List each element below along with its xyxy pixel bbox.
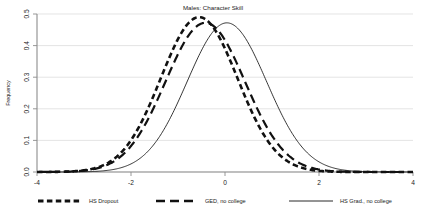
chart-background — [0, 0, 427, 212]
chart-title: Males: Character Skill — [183, 4, 243, 11]
x-tick-label: 2 — [317, 179, 321, 186]
legend-label-hs-grad-no-college: HS Grad., no college — [340, 198, 392, 204]
density-chart: Males: Character Skill 0.00.10.20.30.40.… — [0, 0, 427, 212]
y-tick-label: 0.1 — [23, 135, 30, 144]
y-tick-label: 0.5 — [23, 9, 30, 18]
x-tick-label: 4 — [411, 179, 415, 186]
legend-label-ged-no-college: GED, no college — [205, 198, 246, 204]
y-tick-label: 0.2 — [23, 104, 30, 113]
x-tick-label: 0 — [223, 179, 227, 186]
x-tick-label: -2 — [128, 179, 134, 186]
y-axis-label: Frequency — [5, 80, 11, 106]
x-tick-label: -4 — [34, 179, 40, 186]
y-tick-label: 0.4 — [23, 41, 30, 50]
y-tick-label: 0.0 — [23, 167, 30, 176]
y-tick-label: 0.3 — [23, 72, 30, 81]
legend-label-hs-dropout: HS Dropout — [89, 198, 119, 204]
